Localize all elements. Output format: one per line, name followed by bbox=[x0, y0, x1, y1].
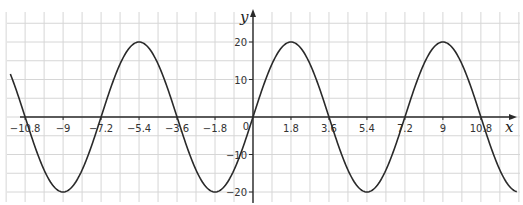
y-tick-label: −10 bbox=[226, 150, 247, 161]
x-tick-label: −3.6 bbox=[165, 123, 189, 134]
y-tick-label: −20 bbox=[226, 187, 247, 198]
x-tick-label: 9 bbox=[440, 123, 446, 134]
y-tick-label: 10 bbox=[234, 75, 247, 86]
x-tick-label: −9 bbox=[56, 123, 71, 134]
grid-lines bbox=[6, 12, 520, 202]
x-tick-label: 10.8 bbox=[470, 123, 492, 134]
x-axis-label: x bbox=[505, 118, 514, 136]
y-axis-label: y bbox=[239, 8, 249, 26]
x-tick-label: −7.2 bbox=[89, 123, 113, 134]
x-tick-label: −10.8 bbox=[10, 123, 41, 134]
sine-chart: −10.8−9−7.2−5.4−3.6−1.81.83.65.47.2910.8… bbox=[0, 0, 523, 205]
x-tick-label: 5.4 bbox=[359, 123, 375, 134]
y-axis-arrow-icon bbox=[250, 9, 256, 17]
x-tick-label: 1.8 bbox=[283, 123, 299, 134]
x-tick-label: −5.4 bbox=[127, 123, 151, 134]
y-tick-label: 20 bbox=[234, 37, 247, 48]
x-tick-label: −1.8 bbox=[203, 123, 227, 134]
